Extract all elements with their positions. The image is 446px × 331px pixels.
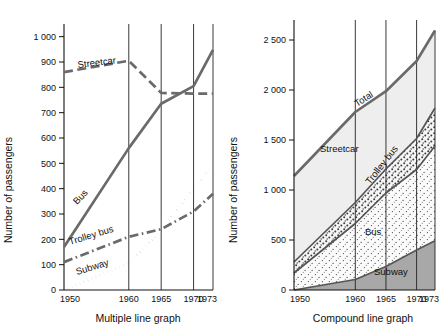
- left-y-tick-label: 1 000: [33, 32, 56, 42]
- left-label-bus: Bus: [71, 187, 90, 207]
- left-y-axis-title: Number of passengers: [2, 137, 14, 243]
- right-x-tick-group: 19501960196519701973: [290, 294, 439, 304]
- left-x-tick-group: 19501960196519701973: [60, 294, 217, 304]
- left-label-subway: Subway: [74, 256, 110, 276]
- left-label-streetcar: Streetcar: [77, 54, 117, 70]
- left-y-tick-label: 900: [41, 57, 56, 67]
- left-y-tick-group: 01002003004005006007008009001 000: [33, 32, 64, 295]
- right-x-tick-label: 1960: [345, 294, 365, 304]
- right-y-tick-label: 2 500: [263, 35, 286, 45]
- right-label-bus: Bus: [365, 226, 382, 237]
- right-caption: Compound line graph: [313, 312, 414, 324]
- left-label-trolleybus: Trolley bus: [67, 223, 115, 247]
- left-y-tick-label: 600: [41, 133, 56, 143]
- right-y-tick-label: 0: [281, 285, 286, 295]
- left-series-group: [64, 50, 213, 290]
- left-x-tick-label: 1950: [60, 294, 80, 304]
- right-x-tick-label: 1965: [376, 294, 396, 304]
- left-y-tick-label: 0: [51, 285, 56, 295]
- left-x-tick-label: 1965: [151, 294, 171, 304]
- left-y-tick-label: 100: [41, 260, 56, 270]
- left-gridline-group: [129, 24, 213, 290]
- left-series-trolley-bus: [64, 194, 213, 262]
- right-y-tick-label: 1 000: [263, 185, 286, 195]
- right-y-tick-label: 500: [271, 235, 286, 245]
- right-y-axis-title: Number of passengers: [227, 137, 239, 243]
- left-y-tick-label: 400: [41, 184, 56, 194]
- multiple-line-graph-svg: Number of passengers 0100200300400500600…: [0, 0, 223, 331]
- left-y-tick-label: 500: [41, 159, 56, 169]
- compound-line-graph-panel: Number of passengers 05001 0001 5002 000…: [223, 0, 446, 331]
- left-y-tick-label: 700: [41, 108, 56, 118]
- left-y-tick-label: 800: [41, 83, 56, 93]
- left-x-tick-label: 1960: [119, 294, 139, 304]
- right-x-tick-label: 1950: [290, 294, 310, 304]
- right-label-streetcar: Streetcar: [320, 143, 359, 154]
- left-x-tick-label: 1973: [197, 294, 217, 304]
- right-x-tick-label: 1973: [419, 294, 439, 304]
- right-y-tick-label: 1 500: [263, 135, 286, 145]
- right-y-tick-label: 2 000: [263, 85, 286, 95]
- left-y-tick-label: 200: [41, 235, 56, 245]
- multiple-line-graph-panel: Number of passengers 0100200300400500600…: [0, 0, 223, 331]
- left-y-tick-label: 300: [41, 209, 56, 219]
- left-caption: Multiple line graph: [95, 312, 180, 324]
- right-y-tick-group: 05001 0001 5002 0002 500: [263, 35, 294, 295]
- left-series-bus: [64, 50, 213, 247]
- compound-line-graph-svg: Number of passengers 05001 0001 5002 000…: [223, 0, 446, 331]
- right-label-subway: Subway: [374, 266, 408, 277]
- two-panel-line-graph-figure: Number of passengers 0100200300400500600…: [0, 0, 446, 331]
